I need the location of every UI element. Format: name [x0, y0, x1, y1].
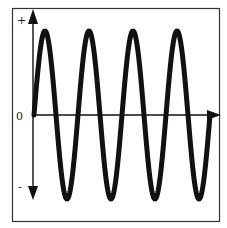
- y-label-zero: 0: [16, 110, 23, 123]
- y-label-minus: -: [18, 181, 22, 194]
- sine-wave-diagram: + 0 -: [0, 0, 227, 228]
- y-axis-down-arrow: [28, 186, 38, 200]
- y-label-plus: +: [17, 14, 26, 27]
- y-axis-up-arrow: [28, 9, 38, 24]
